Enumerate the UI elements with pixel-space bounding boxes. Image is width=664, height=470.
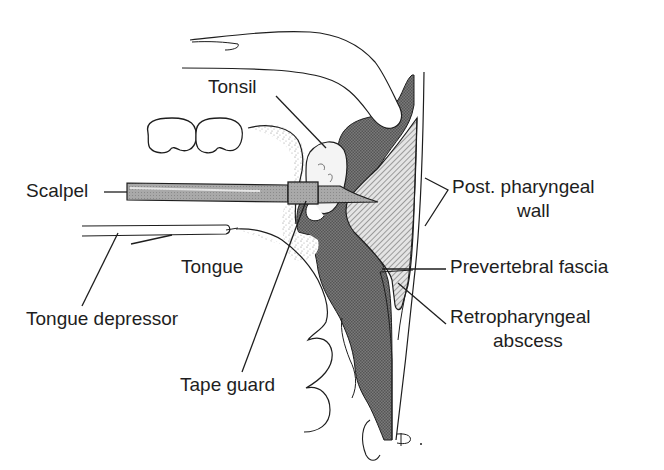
label-post-pharyngeal-wall-line2: wall xyxy=(517,200,550,221)
anatomy-illustration xyxy=(0,0,664,470)
diagram-canvas: Tonsil Scalpel Post. pharyngeal wall Ton… xyxy=(0,0,664,470)
label-tonsil: Tonsil xyxy=(208,76,257,97)
label-retropharyngeal-abscess-line2: abscess xyxy=(493,330,563,351)
tooth-2 xyxy=(196,118,243,153)
tongue-depressor xyxy=(82,225,238,236)
tooth-1 xyxy=(147,118,196,153)
label-prevertebral-fascia: Prevertebral fascia xyxy=(450,256,608,277)
leader-post-pharyngeal-wall xyxy=(425,178,448,226)
label-scalpel: Scalpel xyxy=(26,180,88,201)
tape-guard xyxy=(288,182,318,204)
leader-tongue xyxy=(131,235,172,244)
artist-signature xyxy=(397,433,422,446)
leader-tongue-depressor xyxy=(82,233,118,306)
label-tongue: Tongue xyxy=(181,256,243,277)
teeth xyxy=(147,118,242,153)
leader-tape-guard xyxy=(242,201,306,372)
label-tongue-depressor: Tongue depressor xyxy=(26,308,178,329)
label-retropharyngeal-abscess-line1: Retropharyngeal xyxy=(450,306,590,327)
leader-retropharyngeal-abscess xyxy=(398,283,446,324)
label-post-pharyngeal-wall-line1: Post. pharyngeal xyxy=(452,176,595,197)
label-tape-guard: Tape guard xyxy=(180,374,275,395)
